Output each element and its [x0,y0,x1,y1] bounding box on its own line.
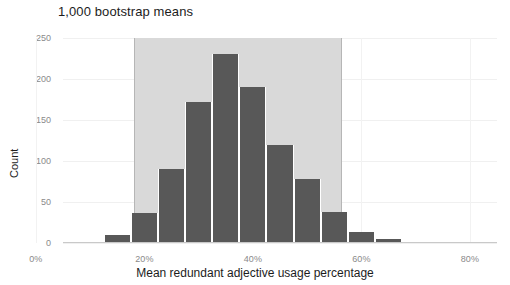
histogram-bar [266,145,293,243]
y-axis-tick-label: 150 [36,115,51,125]
histogram-bar [294,179,321,243]
gridline-vertical [470,38,471,243]
gridline-vertical [36,38,37,243]
gridline-horizontal [63,243,497,244]
x-axis-tick-label: 0% [29,254,42,264]
y-axis-tick-label: 50 [41,197,51,207]
histogram-bar [212,54,239,243]
chart-title: 1,000 bootstrap means [58,4,193,19]
histogram-bar [185,102,212,243]
gridline-vertical [361,38,362,243]
x-axis-tick-label: 40% [244,254,262,264]
y-axis-tick-label: 250 [36,33,51,43]
x-axis: 0%20%40%60%80% [0,248,510,268]
y-axis: Count 050100150200250 [0,38,58,243]
x-axis-line [63,242,497,243]
histogram-bar [239,87,266,243]
histogram-bar [131,213,158,243]
x-axis-title: Mean redundant adjective usage percentag… [0,266,510,280]
y-axis-tick-label: 200 [36,74,51,84]
y-axis-tick-label: 0 [46,238,51,248]
x-axis-tick-label: 60% [352,254,370,264]
bootstrap-histogram-figure: 1,000 bootstrap means Count 050100150200… [0,0,510,285]
x-axis-tick-label: 80% [461,254,479,264]
y-axis-title: Count [8,149,20,178]
y-axis-tick-label: 100 [36,156,51,166]
histogram-bar [321,212,348,243]
histogram-bar [158,169,185,243]
plot-area [63,38,497,243]
x-axis-tick-label: 20% [135,254,153,264]
